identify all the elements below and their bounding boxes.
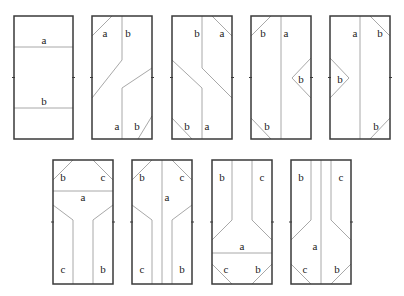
region-label: b bbox=[194, 27, 200, 39]
region-label: b bbox=[334, 263, 340, 275]
partition-line bbox=[92, 60, 122, 98]
partition-line bbox=[291, 220, 311, 240]
partition-line bbox=[172, 205, 192, 220]
region-label: b bbox=[125, 27, 131, 39]
region-label: a bbox=[103, 27, 108, 39]
panel-7: bcacb bbox=[130, 160, 194, 284]
partition-line bbox=[138, 116, 152, 139]
region-label: c bbox=[101, 171, 106, 183]
panel-9: bcacb bbox=[289, 160, 353, 284]
region-label: b bbox=[260, 27, 266, 39]
region-label: a bbox=[313, 240, 318, 252]
region-label: b bbox=[255, 263, 261, 275]
partition-line bbox=[122, 68, 152, 88]
region-label: c bbox=[224, 263, 229, 275]
region-label: b bbox=[298, 171, 304, 183]
region-label: a bbox=[205, 120, 210, 132]
region-label: b bbox=[134, 120, 140, 132]
region-label: b bbox=[373, 120, 379, 132]
region-label: c bbox=[260, 171, 265, 183]
region-label: a bbox=[240, 240, 245, 252]
panel-1: ab bbox=[12, 16, 75, 139]
partition-line bbox=[93, 205, 113, 220]
partition-line bbox=[53, 205, 73, 220]
region-label: a bbox=[220, 27, 225, 39]
partition-line bbox=[172, 60, 202, 88]
panel-3: baba bbox=[170, 16, 234, 139]
panel-6: bcacb bbox=[51, 160, 115, 284]
partition-line bbox=[291, 264, 311, 284]
region-label: b bbox=[179, 263, 185, 275]
region-label: b bbox=[377, 27, 383, 39]
partition-line bbox=[212, 220, 232, 240]
region-label: a bbox=[284, 27, 289, 39]
region-label: b bbox=[60, 171, 66, 183]
region-label: b bbox=[219, 171, 225, 183]
panel-2: abab bbox=[90, 16, 154, 139]
region-label: b bbox=[41, 95, 47, 107]
region-label: b bbox=[100, 263, 106, 275]
region-label: b bbox=[139, 171, 145, 183]
region-label: a bbox=[115, 120, 120, 132]
region-label: c bbox=[339, 171, 344, 183]
partition-diagram: abababbabababbabbbbcacbbcacbbcacbbcacb bbox=[0, 0, 404, 296]
region-label: a bbox=[42, 34, 47, 46]
region-label: b bbox=[184, 120, 190, 132]
region-label: b bbox=[264, 120, 270, 132]
partition-line bbox=[331, 220, 351, 240]
partition-line bbox=[132, 205, 152, 220]
region-label: b bbox=[298, 73, 304, 85]
panel-5: abbb bbox=[328, 16, 392, 139]
partition-line bbox=[202, 68, 232, 98]
panel-8: bcacb bbox=[210, 160, 274, 284]
region-label: a bbox=[81, 191, 86, 203]
region-label: b bbox=[337, 73, 343, 85]
region-label: c bbox=[61, 263, 66, 275]
panel-4: babb bbox=[249, 16, 313, 139]
partition-line bbox=[212, 264, 232, 284]
region-label: a bbox=[353, 27, 358, 39]
region-label: a bbox=[165, 191, 170, 203]
region-label: c bbox=[180, 171, 185, 183]
region-label: c bbox=[140, 263, 145, 275]
partition-line bbox=[252, 220, 272, 240]
region-label: c bbox=[303, 263, 308, 275]
